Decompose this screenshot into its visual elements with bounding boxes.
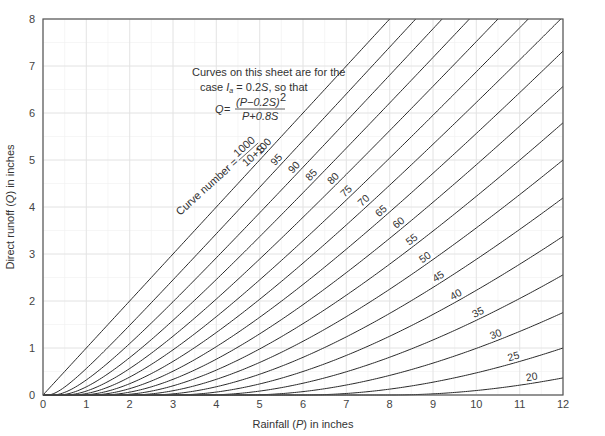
x-tick-label: 11 (514, 398, 525, 410)
curve-label-25: 25 (506, 349, 521, 364)
runoff-chart: 0123456789101112 012345678 1009590858075… (0, 0, 605, 436)
svg-text:(P−0.2S): (P−0.2S) (236, 96, 280, 108)
x-axis-ticks: 0123456789101112 (40, 398, 569, 410)
x-tick-label: 8 (387, 398, 393, 410)
y-tick-label: 8 (29, 13, 35, 25)
y-tick-label: 4 (29, 201, 35, 213)
x-tick-label: 1 (83, 398, 89, 410)
x-tick-label: 0 (40, 398, 46, 410)
y-axis-ticks: 012345678 (29, 13, 35, 401)
x-tick-label: 10 (470, 398, 482, 410)
y-axis-label: Direct runoff (Q) in inches (4, 144, 16, 270)
runoff-equation: Q = (P−0.2S) 2 P+0.8S (215, 91, 286, 122)
x-tick-label: 5 (257, 398, 263, 410)
y-tick-label: 1 (29, 342, 35, 354)
x-tick-label: 12 (557, 398, 569, 410)
curve-number-definition: Curve number = 1000 10+S (170, 133, 267, 224)
y-tick-label: 5 (29, 154, 35, 166)
svg-text:Q: Q (215, 103, 224, 115)
y-tick-label: 2 (29, 295, 35, 307)
svg-text:Curve number =: Curve number = (173, 156, 240, 218)
svg-text:P+0.8S: P+0.8S (242, 110, 279, 122)
y-tick-label: 0 (29, 389, 35, 401)
x-tick-label: 9 (430, 398, 436, 410)
x-tick-label: 2 (127, 398, 133, 410)
svg-text:2: 2 (280, 91, 286, 103)
note-line-1: Curves on this sheet are for the (192, 66, 345, 78)
x-tick-label: 3 (170, 398, 176, 410)
y-tick-label: 7 (29, 60, 35, 72)
x-tick-label: 4 (213, 398, 219, 410)
y-tick-label: 6 (29, 107, 35, 119)
svg-text:=: = (224, 103, 230, 115)
note-line-2: case Ia = 0.2S, so that (200, 81, 308, 94)
x-tick-label: 7 (343, 398, 349, 410)
curve-label-20: 20 (525, 369, 539, 383)
y-tick-label: 3 (29, 248, 35, 260)
x-tick-label: 6 (300, 398, 306, 410)
x-axis-label: Rainfall (P) in inches (253, 418, 354, 430)
